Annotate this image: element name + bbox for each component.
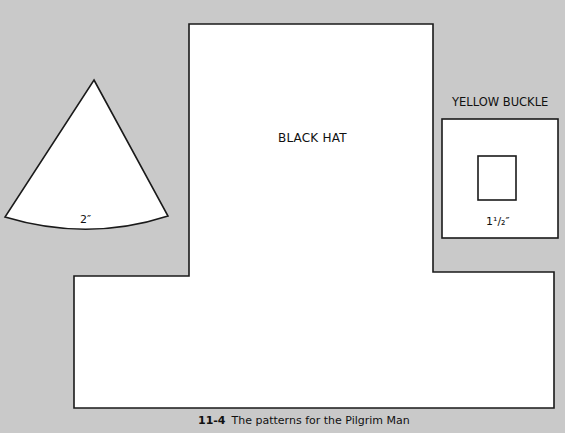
cone-pattern <box>5 80 168 229</box>
buckle-dimension: 1¹/₂″ <box>486 215 510 228</box>
caption-text: The patterns for the Pilgrim Man <box>232 414 410 427</box>
hat-label: BLACK HAT <box>278 131 347 145</box>
buckle-title: YELLOW BUCKLE <box>452 95 548 109</box>
figure-caption: 11-4The patterns for the Pilgrim Man <box>198 414 410 427</box>
cone-dimension: 2″ <box>80 213 91 226</box>
caption-number: 11-4 <box>198 414 226 427</box>
buckle-inner <box>478 156 516 200</box>
